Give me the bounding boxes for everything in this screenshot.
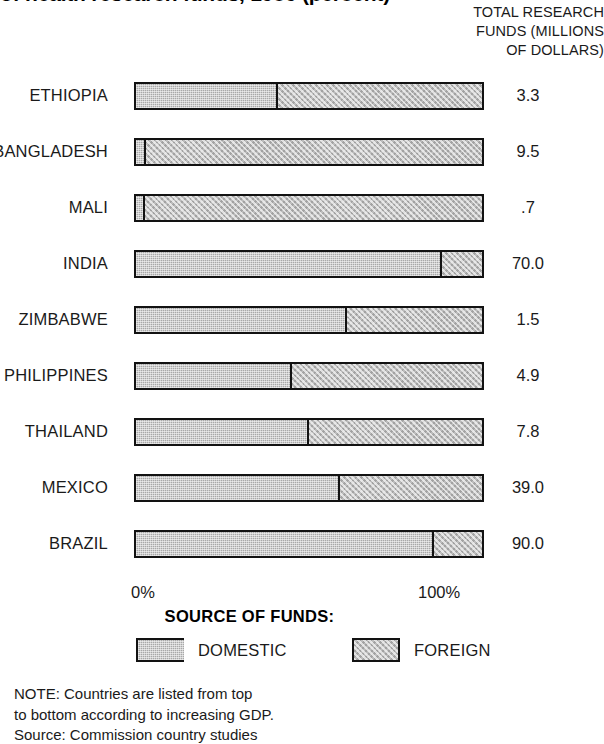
row-label-bangladesh: BANGLADESH <box>0 142 108 161</box>
row-label-philippines: PHILIPPINES <box>0 366 108 385</box>
bar-segment-domestic <box>136 196 145 220</box>
bar-segment-domestic <box>136 140 146 164</box>
row-label-brazil: BRAZIL <box>0 534 108 553</box>
bar-segment-foreign <box>442 252 482 276</box>
value-column-header: TOTAL RESEARCH FUNDS (MILLIONS OF DOLLAR… <box>455 3 604 60</box>
value-column-header-line-2: FUNDS (MILLIONS <box>455 22 604 41</box>
row-value: 90.0 <box>492 534 564 553</box>
row-label-mexico: MEXICO <box>0 478 108 497</box>
value-column-header-line-3: OF DOLLARS) <box>455 41 604 60</box>
bar-segment-foreign <box>292 364 482 388</box>
row-value: 39.0 <box>492 478 564 497</box>
legend-entry-domestic: DOMESTIC <box>136 638 287 662</box>
chart-row: THAILAND7.8 <box>0 416 604 472</box>
bar-segment-domestic <box>136 532 434 556</box>
axis-tick-label-min: 0% <box>131 583 155 602</box>
value-column-header-line-1: TOTAL RESEARCH <box>455 3 604 22</box>
footnote-line-2: to bottom according to increasing GDP. <box>14 705 434 726</box>
bar-segment-domestic <box>136 420 309 444</box>
bar-segment-domestic <box>136 364 292 388</box>
footnote: NOTE: Countries are listed from top to b… <box>14 684 434 744</box>
bar-segment-domestic <box>136 476 340 500</box>
legend-swatch-domestic <box>136 638 184 662</box>
bar-segment-domestic <box>136 252 442 276</box>
row-value: 7.8 <box>492 422 564 441</box>
footnote-line-3: Source: Commission country studies <box>14 725 434 744</box>
bar-segment-foreign <box>145 196 482 220</box>
chart-row: MALI.7 <box>0 192 604 248</box>
chart-plot-area: ETHIOPIA3.3BANGLADESH9.5MALI.7INDIA70.0Z… <box>0 80 604 584</box>
bar-segment-domestic <box>136 308 347 332</box>
bar-track <box>134 194 484 222</box>
bar-track <box>134 418 484 446</box>
bar-track <box>134 530 484 558</box>
bar-segment-foreign <box>340 476 482 500</box>
legend-swatch-foreign <box>352 638 400 662</box>
legend-title: SOURCE OF FUNDS: <box>0 607 604 626</box>
row-value: 1.5 <box>492 310 564 329</box>
chart-row: PHILIPPINES4.9 <box>0 360 604 416</box>
bar-track <box>134 82 484 110</box>
chart-row: ETHIOPIA3.3 <box>0 80 604 136</box>
bar-segment-foreign <box>146 140 482 164</box>
axis-tick-labels: 0% 100% <box>0 583 604 605</box>
row-label-thailand: THAILAND <box>0 422 108 441</box>
row-value: 3.3 <box>492 86 564 105</box>
bar-track <box>134 474 484 502</box>
chart-row: MEXICO39.0 <box>0 472 604 528</box>
axis-tick-label-max: 100% <box>418 583 460 602</box>
row-label-ethiopia: ETHIOPIA <box>0 86 108 105</box>
row-label-india: INDIA <box>0 254 108 273</box>
legend-entry-foreign: FOREIGN <box>352 638 491 662</box>
chart-row: BRAZIL90.0 <box>0 528 604 584</box>
legend-label-foreign: FOREIGN <box>414 641 491 660</box>
bar-segment-foreign <box>309 420 482 444</box>
bar-segment-foreign <box>347 308 482 332</box>
bar-track <box>134 306 484 334</box>
chart-row: ZIMBABWE1.5 <box>0 304 604 360</box>
legend-label-domestic: DOMESTIC <box>198 641 287 660</box>
row-label-zimbabwe: ZIMBABWE <box>0 310 108 329</box>
row-value: 4.9 <box>492 366 564 385</box>
bar-track <box>134 138 484 166</box>
row-value: 9.5 <box>492 142 564 161</box>
row-value: .7 <box>492 198 564 217</box>
chart-row: BANGLADESH9.5 <box>0 136 604 192</box>
bar-track <box>134 362 484 390</box>
bar-track <box>134 250 484 278</box>
chart-row: INDIA70.0 <box>0 248 604 304</box>
bar-segment-foreign <box>434 532 482 556</box>
row-value: 70.0 <box>492 254 564 273</box>
footnote-line-1: NOTE: Countries are listed from top <box>14 684 434 705</box>
row-label-mali: MALI <box>0 198 108 217</box>
bar-segment-domestic <box>136 84 278 108</box>
legend: DOMESTIC FOREIGN <box>0 638 604 672</box>
bar-segment-foreign <box>278 84 482 108</box>
